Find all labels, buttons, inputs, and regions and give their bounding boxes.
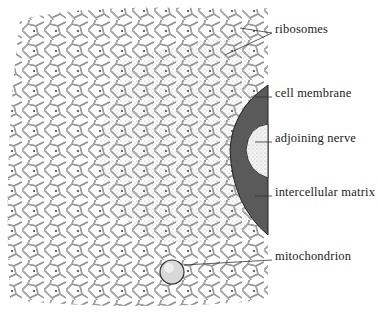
- label-mitochondrion: mitochondrion: [275, 249, 351, 264]
- label-adjoining-nerve: adjoining nerve: [275, 131, 356, 146]
- label-intercellular-matrix: intercellular matrix: [275, 185, 375, 200]
- label-cell-membrane: cell membrane: [275, 86, 352, 101]
- label-ribosomes: ribosomes: [275, 22, 328, 37]
- tissue-illustration: [0, 0, 378, 312]
